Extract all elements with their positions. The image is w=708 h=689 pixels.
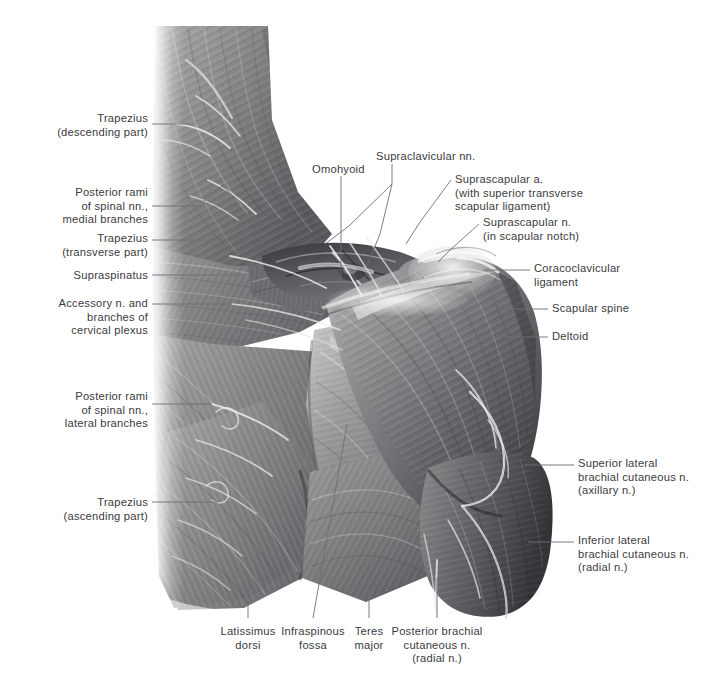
- label-line: Trapezius: [64, 496, 148, 510]
- label-posterior-brachial-cutaneous-nerve: Posterior brachialcutaneous n.(radial n.…: [347, 625, 527, 666]
- label-line: Trapezius: [62, 232, 148, 246]
- label-line: (ascending part): [64, 510, 148, 524]
- label-coracoclavicular-ligament: Coracoclavicularligament: [534, 262, 620, 289]
- label-line: Superior lateral: [578, 457, 689, 471]
- label-line: cervical plexus: [59, 324, 148, 338]
- anatomy-artwork: [0, 0, 708, 689]
- label-line: scapular ligament): [455, 200, 583, 214]
- label-line: Posterior rami: [65, 390, 148, 404]
- label-line: Posterior rami: [63, 186, 148, 200]
- label-trapezius-descending: Trapezius(descending part): [57, 112, 148, 139]
- label-line: (radial n.): [578, 561, 689, 575]
- label-superior-lateral-brachial-cutaneous-nerve: Superior lateralbrachial cutaneous n.(ax…: [578, 457, 689, 498]
- label-line: (axillary n.): [578, 484, 689, 498]
- label-line: of spinal nn.,: [63, 200, 148, 214]
- label-scapular-spine: Scapular spine: [552, 302, 629, 316]
- label-posterior-rami-medial: Posterior ramiof spinal nn.,medial branc…: [63, 186, 148, 227]
- label-inferior-lateral-brachial-cutaneous-nerve: Inferior lateralbrachial cutaneous n.(ra…: [578, 534, 689, 575]
- label-deltoid: Deltoid: [552, 330, 588, 344]
- label-line: brachial cutaneous n.: [578, 548, 689, 562]
- label-line: Suprascapular a.: [455, 173, 583, 187]
- label-suprascapular-artery: Suprascapular a.(with superior transvers…: [455, 173, 583, 214]
- label-line: Scapular spine: [552, 302, 629, 316]
- label-line: Trapezius: [57, 112, 148, 126]
- label-line: (radial n.): [347, 652, 527, 666]
- label-line: brachial cutaneous n.: [578, 471, 689, 485]
- label-supraspinatus: Supraspinatus: [74, 269, 148, 283]
- label-line: Omohyoid: [312, 163, 365, 177]
- label-line: Coracoclavicular: [534, 262, 620, 276]
- label-line: medial branches: [63, 213, 148, 227]
- label-line: cutaneous n.: [347, 639, 527, 653]
- label-line: Inferior lateral: [578, 534, 689, 548]
- label-line: Accessory n. and: [59, 297, 148, 311]
- label-posterior-rami-lateral: Posterior ramiof spinal nn.,lateral bran…: [65, 390, 148, 431]
- label-trapezius-transverse: Trapezius(transverse part): [62, 232, 148, 259]
- medial-edge-softener: [147, 24, 154, 606]
- label-line: branches of: [59, 311, 148, 325]
- label-supraclavicular-nn: Supraclavicular nn.: [376, 150, 475, 164]
- label-line: (with superior transverse: [455, 187, 583, 201]
- label-line: lateral branches: [65, 417, 148, 431]
- label-omohyoid: Omohyoid: [312, 163, 365, 177]
- anatomy-plate: Trapezius(descending part)Posterior rami…: [0, 0, 708, 689]
- label-line: Deltoid: [552, 330, 588, 344]
- label-line: (descending part): [57, 126, 148, 140]
- label-line: ligament: [534, 276, 620, 290]
- label-line: (in scapular notch): [483, 230, 579, 244]
- label-line: of spinal nn.,: [65, 404, 148, 418]
- label-line: Supraspinatus: [74, 269, 148, 283]
- label-line: Suprascapular n.: [483, 216, 579, 230]
- label-trapezius-ascending: Trapezius(ascending part): [64, 496, 148, 523]
- label-suprascapular-nerve: Suprascapular n.(in scapular notch): [483, 216, 579, 243]
- label-accessory-nerve-cervical-plexus: Accessory n. andbranches ofcervical plex…: [59, 297, 148, 338]
- label-line: Posterior brachial: [347, 625, 527, 639]
- label-line: Supraclavicular nn.: [376, 150, 475, 164]
- label-line: (transverse part): [62, 246, 148, 260]
